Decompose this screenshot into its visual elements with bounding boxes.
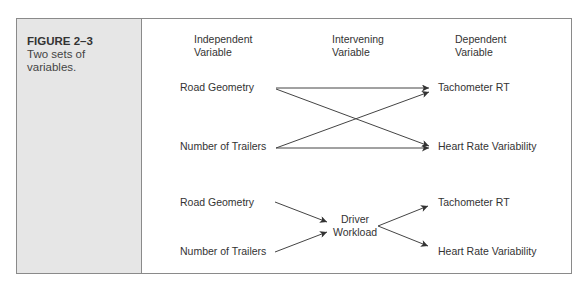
- arrow-trailers-to-tach: [276, 92, 429, 148]
- arrow-workload-to-hrv: [378, 226, 428, 246]
- arrow-trailers-to-workload: [275, 232, 327, 252]
- arrows-layer: [0, 0, 587, 292]
- arrow-workload-to-tach: [378, 206, 428, 226]
- arrow-road-to-workload: [275, 202, 327, 222]
- arrow-road-to-hrv: [276, 89, 429, 146]
